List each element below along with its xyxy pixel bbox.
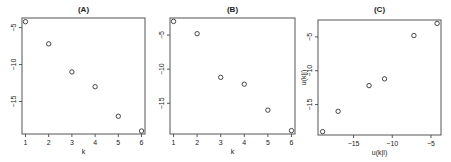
plot-frame: [318, 20, 441, 135]
x-tick-label: 1: [172, 139, 176, 146]
data-point: [367, 83, 371, 87]
y-axis-label: u(k|j): [300, 70, 308, 85]
y-tick-label: −15: [306, 99, 313, 111]
y-tick-label: −10: [158, 63, 165, 75]
data-point: [23, 19, 27, 23]
plot-frame: [170, 18, 295, 134]
panel-b: (B)123456−5−10−15k: [150, 0, 300, 162]
data-point: [46, 42, 50, 46]
x-tick-label: 4: [242, 139, 246, 146]
x-tick-label: 6: [140, 139, 144, 146]
y-tick-label: −10: [10, 59, 17, 71]
x-tick-label: 2: [195, 139, 199, 146]
chart-title: (A): [78, 5, 89, 14]
data-point: [139, 129, 143, 133]
data-point: [195, 31, 199, 35]
data-point: [93, 85, 97, 89]
data-point: [116, 114, 120, 118]
x-tick-label: 3: [219, 139, 223, 146]
x-tick-label: 5: [266, 139, 270, 146]
plot-frame: [22, 18, 145, 134]
data-point: [171, 19, 175, 23]
x-tick-label: 2: [47, 139, 51, 146]
data-point: [219, 75, 223, 79]
x-axis-label: u(k|l): [372, 149, 387, 157]
y-tick-label: −15: [158, 97, 165, 109]
x-tick-label: 6: [290, 139, 294, 146]
data-point: [412, 33, 416, 37]
x-tick-label: 3: [70, 139, 74, 146]
scatter-plot-b: (B)123456−5−10−15k: [150, 0, 300, 162]
data-point: [435, 21, 439, 25]
panel-a: (A)123456−5−10−15k: [0, 0, 150, 162]
panel-c: (C)−15−10−5−5−10−15u(k|l)u(k|j): [300, 0, 451, 162]
data-point: [289, 128, 293, 132]
chart-title: (C): [374, 5, 385, 14]
y-tick-label: −10: [306, 65, 313, 77]
data-point: [336, 109, 340, 113]
x-tick-label: 5: [116, 139, 120, 146]
x-tick-label: −10: [386, 140, 398, 147]
x-tick-label: 1: [24, 139, 28, 146]
y-tick-label: −5: [158, 31, 165, 39]
chart-title: (B): [227, 5, 238, 14]
x-tick-label: −15: [348, 140, 360, 147]
y-tick-label: −5: [306, 33, 313, 41]
y-tick-label: −5: [10, 24, 17, 32]
x-tick-label: −5: [427, 140, 435, 147]
data-point: [382, 77, 386, 81]
scatter-plot-a: (A)123456−5−10−15k: [0, 0, 150, 162]
x-axis-label: k: [231, 148, 235, 155]
data-point: [70, 70, 74, 74]
scatter-plot-c: (C)−15−10−5−5−10−15u(k|l)u(k|j): [300, 0, 451, 162]
y-tick-label: −15: [10, 95, 17, 107]
x-axis-label: k: [82, 148, 86, 155]
data-point: [242, 82, 246, 86]
x-tick-label: 4: [93, 139, 97, 146]
data-point: [266, 108, 270, 112]
data-point: [320, 129, 324, 133]
